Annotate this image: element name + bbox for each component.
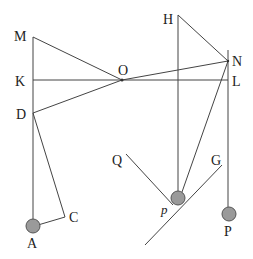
label-H: H: [163, 12, 173, 27]
label-D: D: [16, 107, 26, 122]
label-N: N: [232, 54, 242, 69]
line-H-N: [178, 15, 228, 61]
ball-p: [171, 191, 185, 205]
label-G: G: [211, 153, 221, 168]
label-Q: Q: [112, 153, 122, 168]
label-P: P: [224, 224, 232, 239]
ball-P: [222, 207, 236, 221]
line-Q: [126, 154, 173, 205]
label-p: p: [160, 202, 168, 217]
line-O-N: [122, 61, 228, 80]
label-M: M: [14, 29, 27, 44]
diagram-canvas: M K D A C O H N L Q G p P: [0, 0, 253, 259]
point-N: [227, 60, 229, 62]
ball-A: [26, 219, 40, 233]
line-G-incline: [145, 165, 222, 245]
point-O: [121, 79, 124, 82]
line-D-O: [33, 80, 122, 113]
label-O: O: [118, 63, 128, 78]
line-M-O: [33, 37, 122, 80]
label-K: K: [15, 74, 25, 89]
label-C: C: [69, 210, 78, 225]
label-L: L: [232, 74, 241, 89]
line-C-A: [38, 217, 65, 225]
line-N-p: [182, 61, 228, 192]
label-A: A: [27, 236, 38, 251]
line-D-C: [33, 113, 65, 217]
